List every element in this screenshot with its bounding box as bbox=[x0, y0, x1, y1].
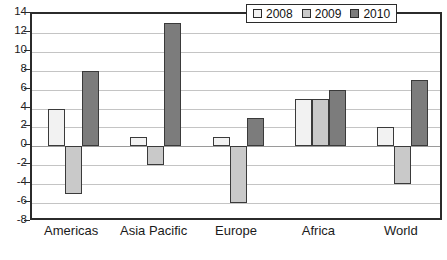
legend-swatch-icon-2010 bbox=[350, 9, 359, 18]
x-axis-label-europe: Europe bbox=[215, 224, 257, 238]
gridline bbox=[32, 203, 440, 204]
x-axis-label-world: World bbox=[384, 224, 418, 238]
x-axis-label-asia-pacific: Asia Pacific bbox=[120, 224, 187, 238]
bar-2008-world bbox=[377, 127, 394, 146]
x-axis-labels: AmericasAsia PacificEuropeAfricaWorld bbox=[30, 224, 442, 248]
legend-entry-2010: 2010 bbox=[350, 8, 390, 20]
legend-label: 2009 bbox=[315, 8, 342, 20]
bar-2009-americas bbox=[65, 146, 82, 193]
plot-inner bbox=[32, 14, 440, 218]
bar-2010-world bbox=[411, 80, 428, 146]
bar-2009-world bbox=[394, 146, 411, 184]
bar-2009-europe bbox=[230, 146, 247, 203]
legend-label: 2008 bbox=[266, 8, 293, 20]
y-axis-tick-mark bbox=[24, 220, 30, 221]
chart-legend: 200820092010 bbox=[246, 4, 397, 23]
legend-label: 2010 bbox=[363, 8, 390, 20]
x-axis-label-africa: Africa bbox=[302, 224, 335, 238]
x-axis-label-americas: Americas bbox=[44, 224, 98, 238]
legend-entry-2009: 2009 bbox=[302, 8, 342, 20]
legend-swatch-icon-2009 bbox=[302, 9, 311, 18]
bar-2010-europe bbox=[247, 118, 264, 146]
bar-2010-asia-pacific bbox=[164, 23, 181, 146]
gridline bbox=[32, 52, 440, 53]
y-axis-tickmarks bbox=[0, 12, 30, 220]
bar-chart: 14121086420-2-4-6-8 AmericasAsia Pacific… bbox=[0, 0, 447, 260]
bar-2008-asia-pacific bbox=[130, 137, 147, 146]
bar-2009-africa bbox=[312, 99, 329, 146]
legend-entry-2008: 2008 bbox=[253, 8, 293, 20]
bar-2010-americas bbox=[82, 71, 99, 147]
legend-swatch-icon-2008 bbox=[253, 9, 262, 18]
bar-2009-asia-pacific bbox=[147, 146, 164, 165]
plot-area bbox=[30, 12, 442, 220]
bar-2008-europe bbox=[213, 137, 230, 146]
bar-2008-americas bbox=[48, 109, 65, 147]
bar-2008-africa bbox=[295, 99, 312, 146]
bar-2010-africa bbox=[329, 90, 346, 147]
gridline bbox=[32, 33, 440, 34]
